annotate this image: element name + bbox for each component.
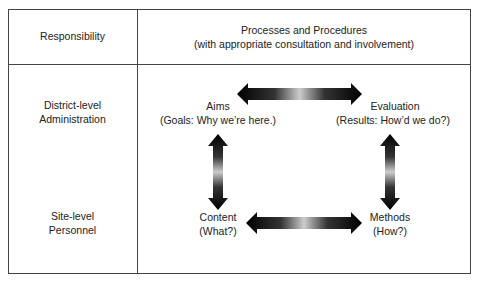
node-methods-label: Methods: [350, 211, 430, 224]
node-evaluation-sub: (Results: How’d we do?): [318, 114, 468, 127]
node-evaluation-label: Evaluation: [340, 100, 450, 113]
node-aims-label: Aims: [163, 100, 273, 113]
arrow-aims-content-icon: [208, 134, 228, 210]
node-methods-sub: (How?): [350, 225, 430, 238]
node-content-label: Content: [178, 211, 258, 224]
arrow-evaluation-methods-icon: [380, 134, 400, 210]
arrow-content-methods-icon: [246, 212, 362, 234]
node-aims-sub: (Goals: Why we’re here.): [143, 114, 293, 127]
node-content-sub: (What?): [178, 225, 258, 238]
arrows-layer: [0, 0, 478, 283]
